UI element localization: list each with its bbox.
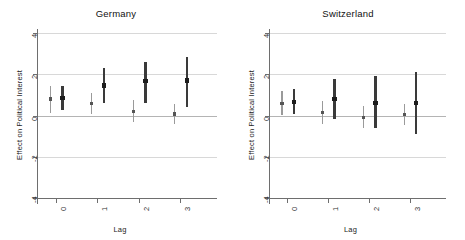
x-tick-label-1: 1: [331, 207, 340, 211]
point-light-lag3: [403, 113, 406, 116]
point-light-lag2: [362, 116, 365, 119]
x-tick-2: [139, 199, 140, 203]
x-axis-line: [37, 198, 217, 199]
panel-title: Switzerland: [232, 8, 464, 19]
x-tick-label-1: 1: [100, 207, 109, 211]
point-dark-lag3: [185, 78, 189, 82]
x-axis-title: Lag: [37, 225, 203, 234]
point-light-lag2: [132, 110, 135, 113]
x-tick-label-0: 0: [290, 207, 299, 211]
y-tick-label-0: 0: [30, 116, 39, 120]
x-tick-3: [180, 199, 181, 203]
point-dark-lag1: [332, 97, 336, 101]
gridline-y--2: [269, 157, 446, 158]
point-dark-lag3: [414, 101, 418, 105]
y-axis-title: Effect on Political Interest: [15, 69, 24, 159]
y-tick-label--2: -2: [262, 155, 271, 162]
point-light-lag1: [321, 111, 324, 114]
gridline-y-2: [269, 74, 446, 75]
x-tick-3: [410, 199, 411, 203]
point-dark-lag0: [292, 100, 296, 104]
y-tick-label-2: 2: [262, 75, 271, 79]
x-tick-0: [56, 199, 57, 203]
gridline-y-2: [37, 74, 217, 75]
panel-title: Germany: [0, 8, 232, 19]
x-tick-1: [97, 199, 98, 203]
gridline-y--2: [37, 157, 217, 158]
x-tick-2: [369, 199, 370, 203]
x-tick-label-3: 3: [183, 207, 192, 211]
x-axis-title: Lag: [269, 225, 432, 234]
zero-line: [269, 116, 446, 117]
plot-area-switzerland: 420-2-40123Effect on Political InterestL…: [269, 33, 432, 198]
point-light-lag3: [173, 112, 176, 115]
x-tick-0: [287, 199, 288, 203]
y-tick-label-0: 0: [262, 116, 271, 120]
point-dark-lag0: [60, 96, 64, 100]
point-dark-lag2: [143, 79, 147, 83]
point-dark-lag1: [102, 83, 106, 87]
panel-switzerland: Switzerland 420-2-40123Effect on Politic…: [232, 0, 464, 240]
x-tick-1: [328, 199, 329, 203]
x-axis-line: [269, 198, 446, 199]
point-light-lag0: [49, 97, 52, 100]
y-tick-label--2: -2: [30, 155, 39, 162]
zero-line: [37, 116, 217, 117]
gridline-y-4: [269, 33, 446, 34]
x-tick-label-0: 0: [59, 207, 68, 211]
point-dark-lag2: [373, 101, 377, 105]
panel-germany: Germany 420-2-40123Effect on Political I…: [0, 0, 232, 240]
x-tick-label-2: 2: [372, 207, 381, 211]
y-tick-label-2: 2: [30, 75, 39, 79]
point-light-lag1: [90, 102, 93, 105]
y-tick-label-4: 4: [30, 34, 39, 38]
y-tick-label-4: 4: [262, 34, 271, 38]
point-light-lag0: [280, 102, 283, 105]
x-tick-label-2: 2: [142, 207, 151, 211]
figure-root: Germany 420-2-40123Effect on Political I…: [0, 0, 465, 240]
gridline-y-4: [37, 33, 217, 34]
y-axis-title: Effect on Political Interest: [247, 69, 256, 159]
x-tick-label-3: 3: [413, 207, 422, 211]
plot-area-germany: 420-2-40123Effect on Political InterestL…: [37, 33, 203, 198]
